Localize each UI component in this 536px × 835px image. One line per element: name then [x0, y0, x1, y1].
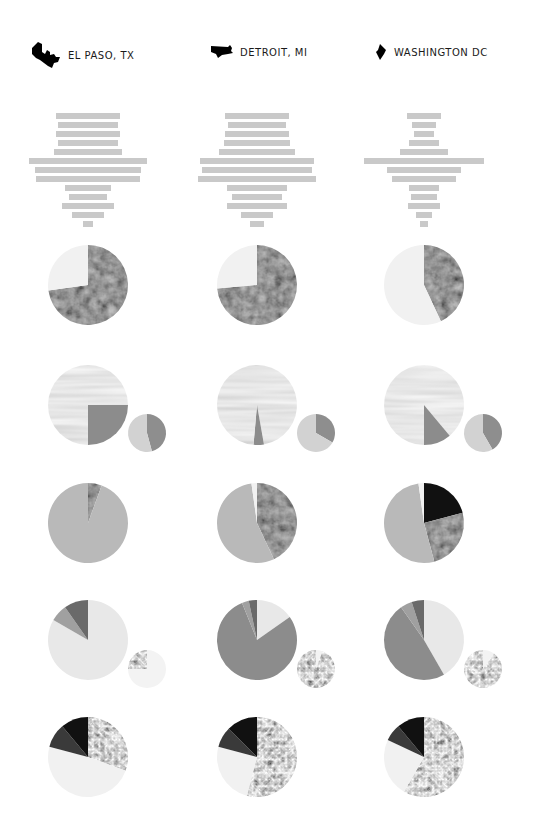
pie-slice-light [48, 245, 88, 291]
pie-slice-gray [48, 483, 128, 563]
population-bar [409, 140, 439, 146]
pie-slice-marble [257, 365, 297, 444]
population-bar [400, 149, 448, 155]
pie-chart [48, 365, 166, 452]
population-bar [219, 149, 295, 155]
pie-slice-marble [384, 365, 424, 445]
pie-chart [48, 717, 128, 797]
pie-slice-marble [88, 365, 128, 405]
pie-chart [48, 600, 166, 688]
population-bar [225, 113, 289, 119]
population-bar [411, 194, 437, 200]
population-bar [227, 185, 287, 191]
population-bar [198, 176, 316, 182]
population-bar [69, 194, 107, 200]
population-bar [387, 167, 461, 173]
small-pie-slice-texture [128, 650, 147, 669]
population-bar [364, 158, 484, 164]
population-bar [412, 122, 436, 128]
pie-slice-marble [48, 365, 88, 445]
population-bar [62, 203, 114, 209]
population-bar [65, 185, 111, 191]
pie-chart [217, 483, 297, 563]
population-bar [72, 212, 104, 218]
population-bar [225, 131, 289, 137]
population-bar [83, 221, 93, 227]
population-bar [414, 131, 434, 137]
population-bar [408, 203, 440, 209]
population-bar [416, 212, 432, 218]
population-bar [241, 212, 273, 218]
population-bar [58, 122, 118, 128]
population-bar [250, 221, 264, 227]
population-bar [228, 122, 286, 128]
population-bar [200, 158, 314, 164]
pie-chart [217, 717, 297, 797]
pie-chart [384, 717, 464, 797]
pie-chart [384, 483, 464, 563]
population-bar [58, 140, 118, 146]
population-bar [227, 203, 287, 209]
chart-canvas [0, 0, 536, 835]
population-bar [407, 113, 441, 119]
pie-chart [384, 245, 464, 325]
population-bar [35, 167, 141, 173]
pie-chart [48, 483, 128, 563]
population-bar [409, 185, 439, 191]
population-bars [29, 113, 484, 227]
population-bar [54, 149, 122, 155]
population-bar [420, 221, 428, 227]
pie-chart [217, 600, 335, 688]
population-bar [392, 176, 456, 182]
population-bar [232, 194, 282, 200]
population-bar [202, 167, 312, 173]
pie-chart [217, 365, 335, 452]
small-pie-slice-texture [464, 650, 502, 688]
pie-slice-gray [88, 405, 128, 445]
pie-chart [48, 245, 128, 325]
pie-grid [48, 245, 502, 797]
pie-chart [217, 245, 297, 325]
pie-slice-marble [217, 365, 257, 445]
population-bar [36, 176, 140, 182]
pie-chart [384, 365, 502, 452]
population-bar [29, 158, 147, 164]
population-bar [224, 140, 290, 146]
population-bar [56, 131, 120, 137]
pie-chart [384, 600, 502, 688]
pie-slice-light [217, 245, 257, 288]
population-bar [56, 113, 120, 119]
